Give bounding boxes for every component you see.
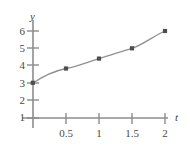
y-tick-label-4: 4 — [11, 60, 25, 71]
y-tick-label-1: 1 — [11, 112, 25, 123]
data-point — [97, 57, 101, 61]
y-tick-label-3: 3 — [11, 78, 25, 89]
y-tick-label-5: 5 — [11, 43, 25, 54]
data-point — [31, 81, 35, 85]
line-chart: y t 6 5 4 3 2 1 0.5 1 1.5 2 — [0, 0, 190, 146]
x-tick-label-2: 2 — [152, 128, 178, 139]
y-tick-label-6: 6 — [11, 26, 25, 37]
plot-area — [0, 0, 190, 146]
x-tick-label-1-5: 1.5 — [119, 128, 145, 139]
data-point — [163, 29, 167, 33]
data-point-markers — [31, 29, 167, 85]
x-axis-label: t — [175, 112, 178, 123]
y-axis-label: y — [30, 11, 35, 22]
data-point — [64, 66, 68, 70]
y-tick-label-2: 2 — [11, 95, 25, 106]
data-point — [130, 46, 134, 50]
x-tick-label-0-5: 0.5 — [53, 128, 79, 139]
x-tick-label-1: 1 — [86, 128, 112, 139]
